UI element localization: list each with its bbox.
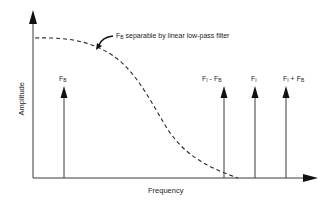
label-sub2: B [218,77,221,83]
arrowhead-icon [283,86,290,98]
label-fi-minus-fb: FI - FB [202,75,222,83]
arrowhead-icon [221,86,228,98]
y-axis-arrowhead-icon [29,10,37,24]
lowpass-curve [35,38,238,178]
arrowhead-icon [252,86,259,98]
annotation-label: FB separable by linear low-pass filter [116,32,229,40]
label-sub: B [63,77,66,83]
spectrum-diagram [0,0,335,205]
spectral-line-fi-minus-fb [221,86,228,178]
label-sub2: B [301,77,304,83]
label-rest: + F [289,75,301,82]
label-fb: FB [59,75,67,83]
y-axis-label: Amplitude [18,79,26,119]
x-axis [33,174,318,182]
x-axis-arrowhead-icon [303,174,318,182]
label-rest: - F [208,75,219,82]
label-fi: FI [251,75,257,83]
spectral-line-fb [61,86,68,178]
label-sub: I [255,77,256,83]
y-axis [29,10,37,178]
annotation-pointer [96,36,113,50]
spectral-line-fi-plus-fb [283,86,290,178]
arrowhead-icon [61,86,68,98]
annotation-text: separable by linear low-pass filter [124,32,230,39]
x-axis-label: Frequency [148,187,183,195]
spectral-line-fi [252,86,259,178]
label-fi-plus-fb: FI + FB [283,75,304,83]
